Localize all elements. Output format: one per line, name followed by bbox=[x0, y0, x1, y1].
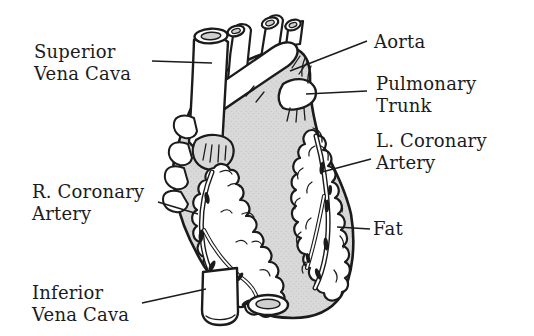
label-line: R. Coronary bbox=[32, 181, 144, 203]
label-line: Vena Cava bbox=[34, 63, 131, 85]
label-inferior-vena-cava: Inferior Vena Cava bbox=[32, 282, 129, 326]
label-fat: Fat bbox=[373, 218, 403, 240]
label-r-coronary-artery: R. Coronary Artery bbox=[32, 181, 144, 225]
figure-heart-posterior: Superior Vena Cava Aorta Pulmonary Trunk… bbox=[0, 0, 534, 336]
leader-inferior-vena-cava bbox=[142, 289, 206, 303]
label-line: Pulmonary bbox=[376, 73, 476, 95]
label-line: L. Coronary bbox=[376, 130, 487, 152]
label-superior-vena-cava: Superior Vena Cava bbox=[34, 41, 131, 85]
label-line: Trunk bbox=[376, 95, 476, 117]
label-line: Aorta bbox=[374, 31, 425, 53]
label-l-coronary-artery: L. Coronary Artery bbox=[376, 130, 487, 174]
bottom-vessel-opening bbox=[248, 295, 288, 315]
label-line: Vena Cava bbox=[32, 304, 129, 326]
label-line: Artery bbox=[376, 152, 487, 174]
label-pulmonary-trunk: Pulmonary Trunk bbox=[376, 73, 476, 117]
label-line: Artery bbox=[32, 203, 144, 225]
label-line: Superior bbox=[34, 41, 131, 63]
label-line: Inferior bbox=[32, 282, 129, 304]
label-line: Fat bbox=[373, 218, 403, 240]
inferior-vena-cava-vessel bbox=[202, 268, 238, 325]
label-aorta: Aorta bbox=[374, 31, 425, 53]
